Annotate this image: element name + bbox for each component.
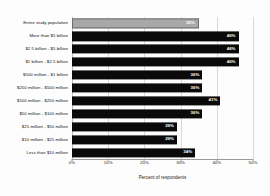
bar: 36% [72, 83, 202, 92]
bar-chart: Entire study population35%More than $5 b… [0, 0, 270, 196]
bar-value-label: 36% [191, 86, 200, 90]
bar: 41% [72, 96, 220, 105]
bar-rows: Entire study population35%More than $5 b… [72, 17, 253, 159]
bar: 36% [72, 109, 202, 118]
bar-value-label: 46% [227, 34, 236, 38]
bar: 29% [72, 135, 177, 144]
category-label: $250 million - $500 million [17, 86, 68, 90]
bar: 36% [72, 70, 202, 79]
bar-row: $1 billion - $2.5 billion46% [72, 56, 253, 69]
bar-row: $500 million - $1 billion36% [72, 69, 253, 82]
bar-row: Less than $10 million34% [72, 146, 253, 159]
bar-value-label: 34% [183, 150, 192, 154]
category-label: $2.5 billion - $5 billion [25, 47, 68, 51]
x-tick-label: 0% [69, 161, 75, 165]
bar: 46% [72, 45, 239, 54]
bar: 46% [72, 32, 239, 41]
x-tick-label: 40% [212, 161, 221, 165]
category-label: Less than $10 million [27, 150, 68, 154]
bar: 29% [72, 122, 177, 131]
category-label: $10 million - $25 million [22, 137, 68, 141]
bar-value-label: 46% [227, 47, 236, 51]
category-label: Entire study population [23, 21, 68, 25]
bar-value-label: 41% [209, 99, 218, 103]
x-axis-title: Percent of respondents [72, 176, 253, 181]
x-tick-label: 10% [104, 161, 113, 165]
bar-row: $50 million - $100 million36% [72, 107, 253, 120]
bar-value-label: 36% [191, 73, 200, 77]
bar-row: More than $5 billion46% [72, 30, 253, 43]
bar: 35% [72, 19, 199, 28]
x-tick-label: 30% [176, 161, 185, 165]
bar: 46% [72, 58, 239, 67]
bar-value-label: 29% [165, 137, 174, 141]
bar-value-label: 29% [165, 125, 174, 129]
category-label: More than $5 billion [29, 34, 68, 38]
x-tick-label: 20% [140, 161, 149, 165]
bar-value-label: 46% [227, 60, 236, 64]
plot-area: Entire study population35%More than $5 b… [0, 0, 270, 196]
bar-row: Entire study population35% [72, 17, 253, 30]
bar-row: $250 million - $500 million36% [72, 82, 253, 95]
bar-value-label: 36% [191, 112, 200, 116]
category-label: $100 million - $250 million [17, 99, 68, 103]
bar-row: $2.5 billion - $5 billion46% [72, 43, 253, 56]
bar-row: $100 million - $250 million41% [72, 94, 253, 107]
bar-value-label: 35% [186, 21, 195, 25]
category-label: $25 million - $50 million [22, 125, 68, 129]
x-axis-ticks: 0%10%20%30%40%50% [72, 161, 253, 171]
category-label: $50 million - $100 million [19, 112, 68, 116]
bar-row: $25 million - $50 million29% [72, 120, 253, 133]
bar: 34% [72, 148, 195, 157]
category-label: $1 billion - $2.5 billion [25, 60, 68, 64]
bar-row: $10 million - $25 million29% [72, 133, 253, 146]
x-axis-line [72, 159, 253, 160]
x-tick-label: 50% [249, 161, 258, 165]
category-label: $500 million - $1 billion [23, 73, 68, 77]
gridline-50pct [253, 17, 254, 159]
